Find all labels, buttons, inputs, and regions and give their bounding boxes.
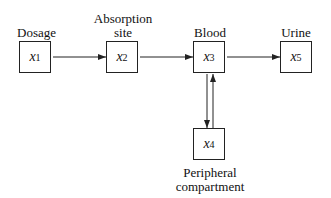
label-absorption-site-line1: Absorption [92,12,154,26]
label-absorption-site-line2: site [92,26,154,40]
node-x1: x1 [19,41,51,73]
node-x3: x3 [193,41,225,73]
label-blood: Blood [188,26,232,40]
node-x5: x5 [280,41,312,73]
node-x4: x4 [193,128,225,160]
label-dosage: Dosage [17,26,55,40]
node-x2: x2 [106,41,138,73]
label-peripheral-line2: compartment [165,180,255,194]
label-peripheral-line1: Peripheral [170,166,250,180]
label-urine: Urine [278,26,314,40]
